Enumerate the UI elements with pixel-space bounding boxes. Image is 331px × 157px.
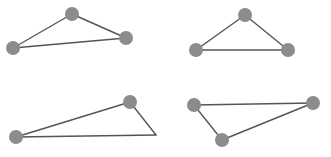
triangle-bottom-right-vertex-left-dot — [187, 98, 201, 112]
triangle-bottom-left-vertex-top-right-dot — [123, 95, 137, 109]
diagram-svg — [0, 0, 331, 157]
triangle-top-right-vertex-left-base-dot — [189, 43, 203, 57]
triangle-top-right-vertex-right-base-dot — [281, 43, 295, 57]
triangle-bottom-right-vertex-right-dot — [306, 96, 320, 110]
triangle-bottom-right-vertex-bottom-dot — [215, 133, 229, 147]
triangle-diagram-canvas — [0, 0, 331, 157]
triangle-top-right-vertex-apex-dot — [238, 8, 252, 22]
triangle-bottom-left-vertex-left-dot — [9, 130, 23, 144]
triangle-top-left-vertex-left-dot — [6, 41, 20, 55]
triangle-top-left-vertex-apex-dot — [65, 7, 79, 21]
diagram-background — [0, 0, 331, 157]
triangle-top-left-vertex-right-dot — [119, 31, 133, 45]
